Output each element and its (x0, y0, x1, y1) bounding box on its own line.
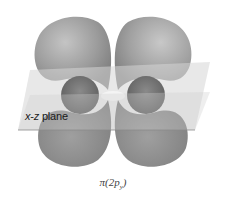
plane-label: x-z plane (25, 110, 68, 122)
orbital-caption: π(2py) (0, 176, 226, 191)
orbital-illustration (0, 0, 226, 198)
orbital-diagram: x-z plane π(2py) (0, 0, 226, 198)
